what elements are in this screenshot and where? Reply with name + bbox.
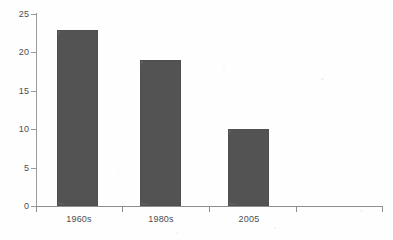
y-axis-tick-label-0: 0 [3, 202, 29, 211]
x-axis-tick [296, 207, 297, 212]
y-axis-tick [31, 91, 36, 92]
bar-2005 [228, 129, 269, 206]
y-axis-tick [31, 168, 36, 169]
y-axis-tick [31, 14, 36, 15]
y-axis-tick-label-20: 20 [3, 48, 29, 57]
y-axis-tick-label-10: 10 [3, 125, 29, 134]
bar-1980s [140, 60, 181, 206]
y-axis-tick-label-15: 15 [3, 87, 29, 96]
x-axis-tick [382, 207, 383, 212]
y-axis-line [36, 13, 37, 207]
bar-1960s [57, 30, 98, 206]
x-axis-tick [122, 207, 123, 212]
x-axis-label-1980s: 1980s [126, 214, 196, 225]
y-axis-tick-label-25: 25 [3, 10, 29, 19]
x-axis-tick [209, 207, 210, 212]
y-axis-tick [31, 52, 36, 53]
bar-chart-figure: 25 20 15 10 5 0 1960s 1980s 2005 [0, 0, 393, 240]
y-axis-tick [31, 129, 36, 130]
x-axis-label-2005: 2005 [214, 214, 284, 225]
x-axis-tick [36, 207, 37, 212]
y-axis-tick-label-5: 5 [3, 164, 29, 173]
x-axis-label-1960s: 1960s [44, 214, 114, 225]
plot-area: 25 20 15 10 5 0 1960s 1980s 2005 [0, 0, 393, 240]
